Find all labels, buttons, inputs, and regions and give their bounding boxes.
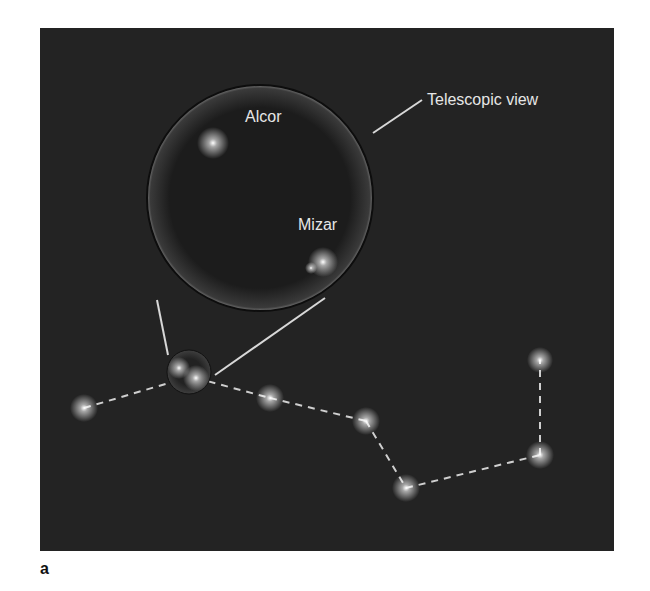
- telescopic-view-label: Telescopic view: [427, 91, 538, 109]
- mizar-label: Mizar: [298, 216, 337, 234]
- constellation-lines: [84, 360, 540, 488]
- alcor-label: Alcor: [245, 108, 281, 126]
- night-sky-panel: Alcor Mizar Telescopic view: [40, 28, 614, 551]
- panel-letter: a: [40, 560, 49, 578]
